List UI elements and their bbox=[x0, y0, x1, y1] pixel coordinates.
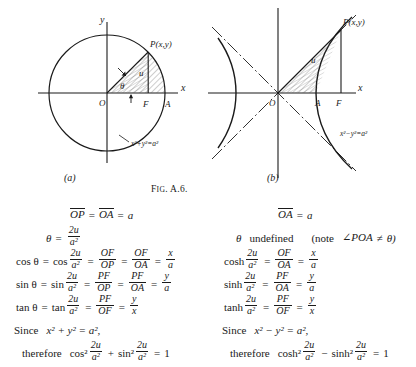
hyperbola-point-p-label: P(x,y) bbox=[342, 17, 365, 27]
fraction-numerator: 2u bbox=[89, 340, 103, 351]
circle-area-u-label: u bbox=[139, 68, 144, 78]
angle-poa: ∠POA bbox=[342, 231, 373, 244]
fraction-numerator: y bbox=[130, 294, 138, 305]
equals-sign: = bbox=[369, 347, 383, 359]
fraction-denominator: OF bbox=[274, 305, 291, 317]
fraction-numerator: PF bbox=[96, 271, 112, 282]
fraction-numerator: OF bbox=[99, 248, 116, 259]
fraction-of-over-op: OF OP bbox=[99, 248, 116, 270]
figure-caption-smallcaps: IG bbox=[157, 185, 166, 194]
since-keyword: Since bbox=[222, 324, 246, 336]
fraction-2u-over-a2: 2u a² bbox=[244, 294, 258, 316]
equation-line-cosh: cosh 2u a² = OF OA = x a bbox=[216, 249, 416, 272]
circle-origin-label: O bbox=[99, 98, 106, 108]
circle-equation-label: x²+y²=a² bbox=[130, 139, 159, 148]
page-root: y x O P(x,y) F A u θ x²+y²=a² bbox=[0, 0, 416, 367]
tanh-function-name: tanh bbox=[224, 301, 243, 313]
fraction-denominator: OF bbox=[96, 305, 113, 317]
fraction-denominator: a² bbox=[244, 282, 256, 294]
hyperbolic-expression: x² − y² = a², bbox=[254, 324, 308, 336]
sin-theta-label: sin θ bbox=[16, 278, 37, 290]
segment-op: OP bbox=[70, 208, 85, 221]
figures-svg: y x O P(x,y) F A u θ x²+y²=a² bbox=[0, 0, 416, 200]
equals-sign-2: = bbox=[292, 278, 306, 290]
hyperbola-vertex-a-label: A bbox=[314, 98, 321, 108]
circle-foot-f-label: F bbox=[142, 99, 149, 109]
fraction-denominator: x bbox=[130, 305, 138, 317]
pythagorean-expression: x² + y² = a², bbox=[46, 324, 100, 336]
fraction-numerator: x bbox=[166, 248, 174, 259]
sin-function-name: sin bbox=[51, 278, 64, 290]
since-keyword: Since bbox=[14, 324, 38, 336]
fraction-pf-over-of: PF OF bbox=[96, 294, 113, 316]
therefore-line-circle: therefore cos² 2u a² + sin² 2u a² = 1 bbox=[8, 341, 208, 364]
equals-sign: = bbox=[258, 278, 272, 290]
cos-function-name: cos bbox=[53, 255, 68, 267]
not-equal-sign: ≠ bbox=[373, 232, 387, 244]
cosh-function-name: cosh bbox=[224, 255, 244, 267]
fraction-denominator: a² bbox=[355, 351, 367, 363]
undefined-word: undefined bbox=[249, 232, 293, 244]
fraction-numerator: y bbox=[307, 271, 315, 282]
fraction-numerator: y bbox=[308, 294, 316, 305]
circle-equation-leader bbox=[119, 135, 129, 142]
fraction-numerator: 2u bbox=[244, 294, 258, 305]
fraction-numerator: PF bbox=[274, 271, 290, 282]
hyperbola-foot-f-label: F bbox=[335, 98, 342, 108]
equals-sign-2: = bbox=[294, 255, 308, 267]
fraction-denominator: a² bbox=[66, 282, 78, 294]
fraction-pf-over-oa: PF OA bbox=[129, 271, 146, 293]
fraction-denominator: a² bbox=[70, 259, 82, 271]
hyperbola-equation-label: x²−y²=a² bbox=[339, 129, 368, 138]
circle-point-p-label: P(x,y) bbox=[149, 39, 172, 49]
fraction-2u-over-a2: 2u a² bbox=[89, 340, 103, 362]
hyperbola-x-axis-label: x bbox=[357, 82, 363, 93]
therefore-keyword: therefore bbox=[22, 347, 62, 359]
segment-oa: OA bbox=[99, 208, 114, 221]
fraction-y-over-a: y a bbox=[307, 271, 316, 293]
fraction-2u-over-a2: 2u a² bbox=[67, 225, 81, 247]
circle-angle-theta-label: θ bbox=[120, 81, 125, 91]
therefore-keyword: therefore bbox=[230, 347, 270, 359]
equals-sign-2: = bbox=[84, 255, 98, 267]
circle-x-axis-label: x bbox=[180, 82, 186, 93]
fraction-denominator: a bbox=[307, 282, 316, 294]
equals-sign: = bbox=[51, 232, 65, 244]
equation-line-tan: tan θ = tan 2u a² = PF OF = y x bbox=[8, 295, 208, 318]
theta-symbol: θ bbox=[236, 232, 241, 244]
value-a: a bbox=[307, 209, 313, 221]
equals-sign: = bbox=[39, 255, 53, 267]
equals-sign-4: = bbox=[151, 255, 165, 267]
fraction-numerator: 2u bbox=[243, 271, 257, 282]
equals-sign: = bbox=[259, 301, 273, 313]
fraction-2u-over-a2: 2u a² bbox=[65, 271, 79, 293]
value-one: 1 bbox=[164, 347, 170, 359]
cosh-squared-label: cosh² bbox=[278, 347, 301, 359]
fraction-of-over-oa: OF OA bbox=[275, 248, 292, 270]
theta-close-paren: θ) bbox=[387, 232, 396, 244]
fraction-denominator: x bbox=[308, 305, 316, 317]
equals-sign: = bbox=[260, 255, 274, 267]
tan-function-name: tan bbox=[52, 301, 65, 313]
fraction-numerator: 2u bbox=[135, 340, 149, 351]
equation-line-oa: OA = a bbox=[216, 203, 416, 226]
fraction-denominator: a bbox=[162, 282, 171, 294]
equation-line-sinh: sinh 2u a² = PF OA = y a bbox=[216, 272, 416, 295]
fraction-numerator: PF bbox=[97, 294, 113, 305]
equals-sign: = bbox=[85, 209, 99, 221]
plus-sign: + bbox=[104, 347, 118, 359]
fraction-2u-over-a2: 2u a² bbox=[66, 294, 80, 316]
since-line-circle: Since x² + y² = a², bbox=[8, 318, 208, 341]
equals-sign: = bbox=[37, 301, 51, 313]
sinh-function-name: sinh bbox=[224, 278, 242, 290]
fraction-pf-over-of: PF OF bbox=[274, 294, 291, 316]
fraction-numerator: 2u bbox=[65, 271, 79, 282]
fraction-numerator: 2u bbox=[302, 340, 316, 351]
figure-caption-tail: . A.6. bbox=[165, 184, 187, 194]
equals-sign: = bbox=[293, 209, 307, 221]
fraction-denominator: a² bbox=[90, 351, 102, 363]
sinh-squared-label: sinh² bbox=[331, 347, 353, 359]
fraction-numerator: OF bbox=[275, 248, 292, 259]
equals-sign-2: = bbox=[293, 301, 307, 313]
fraction-numerator: 2u bbox=[69, 248, 83, 259]
